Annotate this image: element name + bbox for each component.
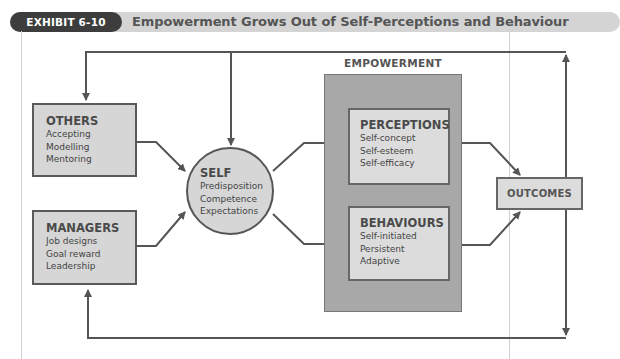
perceptions-item: Self-esteem [360,145,438,158]
self-item: Expectations [200,205,272,218]
behaviours-item: Adaptive [360,255,438,268]
managers-item: Job designs [46,235,123,248]
outcomes-box: OUTCOMES [496,177,583,210]
managers-box: MANAGERS Job designs Goal reward Leaders… [32,210,137,285]
behaviours-title: BEHAVIOURS [360,216,438,230]
others-box: OTHERS Accepting Modelling Mentoring [32,103,137,177]
self-title: SELF [200,166,272,180]
managers-title: MANAGERS [46,221,123,235]
behaviours-item: Persistent [360,243,438,256]
perceptions-item: Self-concept [360,132,438,145]
behaviours-item: Self-initiated [360,230,438,243]
self-item: Predisposition [200,180,272,193]
empowerment-label: EMPOWERMENT [324,57,462,69]
managers-item: Leadership [46,260,123,273]
perceptions-item: Self-efficacy [360,157,438,170]
self-circle: SELF Predisposition Competence Expectati… [186,147,274,235]
others-item: Accepting [46,128,123,141]
managers-item: Goal reward [46,248,123,261]
behaviours-box: BEHAVIOURS Self-initiated Persistent Ada… [348,206,450,281]
perceptions-title: PERCEPTIONS [360,118,438,132]
self-item: Competence [200,193,272,206]
perceptions-box: PERCEPTIONS Self-concept Self-esteem Sel… [348,108,450,185]
others-title: OTHERS [46,114,123,128]
others-item: Mentoring [46,153,123,166]
others-item: Modelling [46,141,123,154]
